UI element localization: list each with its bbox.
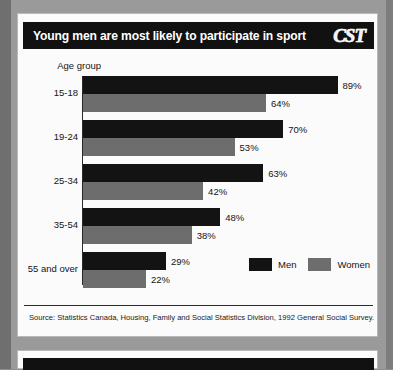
bar-row-women: 64% [83,94,290,112]
plot-area: Age group 15-1889%64%19-2470%53%25-3463%… [18,58,379,293]
bar-row-men: 70% [83,120,307,138]
chart-title: Young men are most likely to participate… [33,29,306,43]
bar-value-label: 48% [225,212,244,223]
bar-value-label: 63% [268,168,287,179]
bar-women [83,94,266,112]
bar-row-men: 29% [83,252,190,270]
category-label: 15-18 [18,87,78,98]
next-chart-panel [17,350,378,369]
legend-swatch-women [308,258,331,271]
category-label: 55 and over [18,263,78,274]
chart-panel: Young men are most likely to participate… [17,13,378,337]
bar-row-women: 53% [83,138,259,156]
bar-value-label: 22% [151,274,170,285]
bar-value-label: 42% [208,186,227,197]
bar-value-label: 38% [197,230,216,241]
bar-value-label: 70% [288,124,307,135]
bar-value-label: 29% [171,256,190,267]
bar-men [83,76,338,94]
category-label: 25-34 [18,175,78,186]
bar-women [83,270,146,288]
legend-item-men: Men [249,258,296,271]
bar-men [83,252,166,270]
bar-group: 15-1889%64% [18,76,379,112]
category-label: 19-24 [18,131,78,142]
bar-men [83,120,283,138]
bar-row-women: 22% [83,270,170,288]
title-banner: Young men are most likely to participate… [23,22,374,49]
chart-legend: Men Women [249,258,370,271]
bar-row-women: 38% [83,226,216,244]
cst-logo-icon: CST [333,26,367,45]
page-gutter-left [0,0,11,369]
legend-item-women: Women [308,258,370,271]
bar-row-men: 89% [83,76,362,94]
category-label: 35-54 [18,219,78,230]
bar-row-men: 63% [83,164,287,182]
bar-value-label: 53% [240,142,259,153]
legend-label-women: Women [337,259,370,270]
bar-row-men: 48% [83,208,244,226]
bar-value-label: 89% [343,80,362,91]
source-note: Source: Statistics Canada, Housing, Fami… [29,313,369,322]
legend-swatch-men [249,258,272,271]
bar-group: 19-2470%53% [18,120,379,156]
bar-men [83,164,263,182]
bar-row-women: 42% [83,182,227,200]
bar-women [83,226,192,244]
source-divider [24,305,373,306]
bar-men [83,208,220,226]
bar-women [83,138,235,156]
bar-value-label: 64% [271,98,290,109]
axis-label-age-group: Age group [46,60,101,71]
legend-label-men: Men [278,259,296,270]
bar-group: 25-3463%42% [18,164,379,200]
bar-women [83,182,203,200]
page-gutter-right [386,0,393,369]
bar-group: 35-5448%38% [18,208,379,244]
next-chart-title-banner [23,358,374,370]
